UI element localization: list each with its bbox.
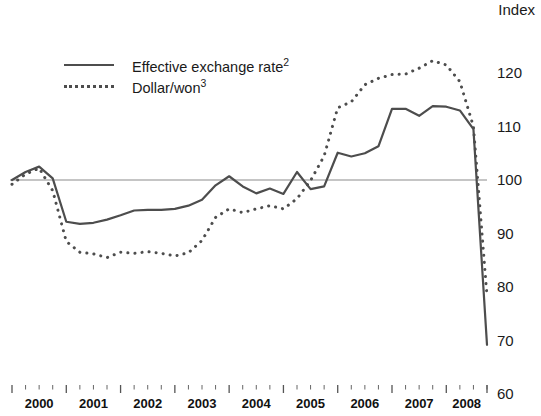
x-axis-tick-label-2001: 2001 [79,396,108,411]
legend-item-effective-exchange-rate: Effective exchange rate2 [62,54,362,75]
dotted-line-swatch-icon [62,80,116,92]
legend-text-0: Effective exchange rate [132,58,283,74]
y-axis-tick-label-70: 70 [497,333,514,349]
series-line-dollar-won [12,61,487,296]
legend-text-1: Dollar/won [132,79,201,95]
y-axis-tick-label-80: 80 [497,279,514,295]
x-axis-tick-label-2007: 2007 [405,396,434,411]
chart-legend: Effective exchange rate2 Dollar/won3 [62,54,362,96]
solid-line-swatch-icon [62,59,116,71]
legend-label-dollar-won: Dollar/won3 [116,75,206,97]
x-axis-tick-label-2004: 2004 [242,396,271,411]
x-axis-tick-marks [12,385,487,393]
legend-label-effective-exchange-rate: Effective exchange rate2 [116,54,289,76]
legend-footnote-1: 3 [201,78,207,89]
legend-footnote-0: 2 [283,57,289,68]
exchange-rate-line-chart: Index 12011010090807060 2000200120022003… [0,0,541,416]
x-axis-tick-label-2005: 2005 [296,396,325,411]
series-line-effective-exchange-rate [12,106,487,345]
y-axis-tick-label-120: 120 [497,65,522,81]
x-axis-tick-label-2000: 2000 [25,396,54,411]
x-axis-tick-label-2003: 2003 [188,396,217,411]
y-axis-tick-label-110: 110 [497,119,521,135]
x-axis-tick-label-2002: 2002 [133,396,162,411]
y-axis-tick-label-60: 60 [497,386,514,402]
y-axis-tick-label-100: 100 [497,172,522,188]
y-axis-tick-label-90: 90 [497,226,514,242]
x-axis-tick-label-2006: 2006 [350,396,379,411]
legend-item-dollar-won: Dollar/won3 [62,75,362,96]
y-axis-unit-label: Index [498,2,535,18]
x-axis-tick-label-2008: 2008 [452,396,481,411]
data-series-layer [12,61,487,345]
